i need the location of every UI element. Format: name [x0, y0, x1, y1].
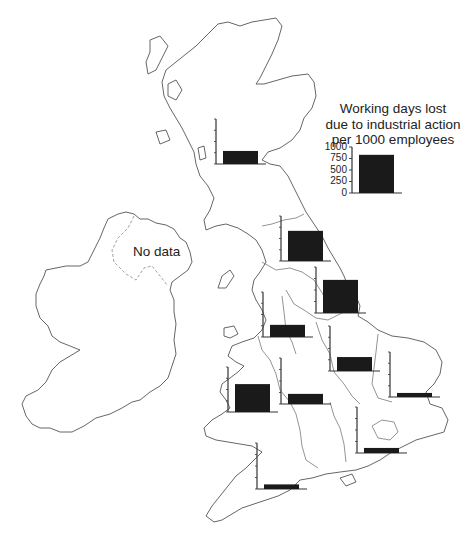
arran-island: [198, 146, 206, 160]
bar: [288, 394, 323, 404]
bar: [288, 231, 323, 261]
legend-bar-chart: [349, 147, 402, 193]
bar: [364, 448, 399, 453]
bar: [397, 393, 432, 397]
anglesey-island: [224, 326, 238, 338]
bar: [223, 151, 258, 164]
bar: [235, 384, 270, 412]
legend-tick-750: 750: [317, 152, 347, 163]
no-data-label: No data: [133, 244, 180, 259]
legend-bar: [359, 155, 394, 193]
isle-of-wight: [340, 474, 356, 486]
legend-title-line-2: due to industrial action: [318, 117, 466, 133]
islay-island: [156, 130, 170, 144]
legend-title-line-1: Working days lost: [318, 101, 466, 117]
outer-hebrides: [146, 36, 168, 74]
legend-tick-0: 0: [317, 187, 347, 198]
great-britain-coastline: [162, 18, 448, 522]
bar: [264, 484, 299, 489]
legend-tick-250: 250: [317, 175, 347, 186]
isle-of-man: [218, 270, 234, 288]
map-of-british-isles: [0, 0, 466, 538]
bar: [337, 357, 372, 371]
bar: [323, 280, 358, 313]
legend-tick-1000: 1000: [317, 141, 347, 152]
legend-tick-500: 500: [317, 164, 347, 175]
bar: [270, 325, 305, 337]
